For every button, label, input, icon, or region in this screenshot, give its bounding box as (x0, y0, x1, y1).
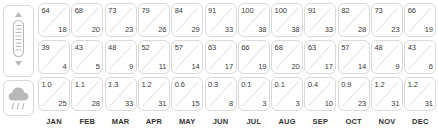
month-column-feb: 68204351.128 (71, 3, 103, 114)
high-temperature-cell[interactable]: 7323 (105, 3, 137, 37)
high-temperature-cell-primary-value: 73 (108, 6, 116, 15)
precipitation-cell-primary-value: 1.0 (42, 80, 52, 89)
high-temperature-cell-secondary-value: 29 (192, 25, 200, 34)
month-column-jun: 913363170.38 (205, 3, 237, 114)
rain-cloud-icon (7, 85, 31, 111)
high-temperature-cell-primary-value: 100 (275, 6, 287, 15)
precipitation-cell-secondary-value: 33 (125, 99, 133, 108)
precipitation-cell[interactable]: 1.231 (138, 77, 170, 111)
high-temperature-cell-primary-value: 91 (208, 6, 216, 15)
low-temperature-cell-primary-value: 39 (42, 43, 50, 52)
high-temperature-cell[interactable]: 9133 (304, 3, 336, 37)
month-label: JAN (38, 117, 70, 126)
high-temperature-cell-primary-value: 84 (175, 6, 183, 15)
low-temperature-cell-primary-value: 43 (408, 43, 416, 52)
month-label: AUG (271, 117, 303, 126)
month-column-may: 842957140.615 (171, 3, 203, 114)
low-temperature-cell[interactable]: 5714 (171, 40, 203, 74)
low-temperature-cell-secondary-value: 20 (291, 62, 299, 71)
high-temperature-cell-primary-value: 82 (341, 6, 349, 15)
low-temperature-cell-primary-value: 48 (375, 43, 383, 52)
month-label: NOV (371, 117, 403, 126)
low-temperature-cell-primary-value: 68 (275, 43, 283, 52)
low-temperature-cell[interactable]: 5211 (138, 40, 170, 74)
low-temperature-cell-primary-value: 57 (175, 43, 183, 52)
month-column-jan: 64183941.025 (38, 3, 70, 114)
high-temperature-cell-secondary-value: 20 (92, 25, 100, 34)
precipitation-cell-secondary-value: 8 (229, 99, 233, 108)
precipitation-cell-secondary-value: 25 (58, 99, 66, 108)
low-temperature-cell-secondary-value: 17 (225, 62, 233, 71)
high-temperature-cell-secondary-value: 38 (291, 25, 299, 34)
month-column-jul: 1003866190.13 (238, 3, 270, 114)
precipitation-cell-primary-value: 1.1 (75, 80, 85, 89)
precipitation-cell[interactable]: 0.410 (304, 77, 336, 111)
month-column-mar: 73234891.333 (105, 3, 137, 114)
low-temperature-cell[interactable]: 6317 (205, 40, 237, 74)
high-temperature-cell[interactable]: 6820 (71, 3, 103, 37)
precipitation-cell-primary-value: 1.2 (141, 80, 151, 89)
low-temperature-cell[interactable]: 6619 (238, 40, 270, 74)
low-temperature-cell[interactable]: 394 (38, 40, 70, 74)
precipitation-cell[interactable]: 0.923 (338, 77, 370, 111)
precipitation-cell[interactable]: 0.615 (171, 77, 203, 111)
precipitation-cell-secondary-value: 23 (358, 99, 366, 108)
low-temperature-cell-primary-value: 63 (208, 43, 216, 52)
precipitation-cell[interactable]: 1.231 (371, 77, 403, 111)
high-temperature-cell-primary-value: 100 (241, 6, 253, 15)
month-label: SEP (304, 117, 336, 126)
precipitation-cell-primary-value: 0.4 (308, 80, 318, 89)
high-temperature-cell-secondary-value: 18 (58, 25, 66, 34)
low-temperature-cell[interactable]: 489 (105, 40, 137, 74)
high-temperature-cell[interactable]: 7323 (371, 3, 403, 37)
precipitation-cell[interactable]: 1.128 (71, 77, 103, 111)
low-temperature-cell-secondary-value: 9 (129, 62, 133, 71)
precipitation-row-icon-cell (3, 80, 34, 116)
precipitation-cell[interactable]: 1.231 (404, 77, 436, 111)
low-temperature-cell[interactable]: 6820 (271, 40, 303, 74)
precipitation-cell-secondary-value: 15 (192, 99, 200, 108)
low-temperature-cell[interactable]: 5714 (338, 40, 370, 74)
low-temperature-cell-secondary-value: 11 (159, 62, 167, 71)
precipitation-cell[interactable]: 0.38 (205, 77, 237, 111)
climate-summary-widget: JAN64183941.025FEB68204351.128MAR7323489… (0, 0, 438, 131)
high-temperature-cell-primary-value: 68 (75, 6, 83, 15)
precipitation-cell[interactable]: 0.13 (271, 77, 303, 111)
low-temperature-cell[interactable]: 489 (371, 40, 403, 74)
low-temperature-cell-primary-value: 52 (141, 43, 149, 52)
high-temperature-cell[interactable]: 6619 (404, 3, 436, 37)
low-temperature-cell-primary-value: 66 (241, 43, 249, 52)
thermometer-icon (8, 10, 29, 72)
high-temperature-cell[interactable]: 8228 (338, 3, 370, 37)
precipitation-cell-secondary-value: 3 (262, 99, 266, 108)
low-temperature-cell-primary-value: 48 (108, 43, 116, 52)
month-column-sep: 913363170.410 (304, 3, 336, 114)
precipitation-cell[interactable]: 1.333 (105, 77, 137, 111)
low-temperature-cell[interactable]: 436 (404, 40, 436, 74)
high-temperature-cell[interactable]: 6418 (38, 3, 70, 37)
low-temperature-cell-secondary-value: 14 (358, 62, 366, 71)
month-column-apr: 792652111.231 (138, 3, 170, 114)
high-temperature-cell[interactable]: 7926 (138, 3, 170, 37)
precipitation-cell[interactable]: 1.025 (38, 77, 70, 111)
precipitation-cell[interactable]: 0.13 (238, 77, 270, 111)
high-temperature-cell[interactable]: 10038 (238, 3, 270, 37)
month-label: JUL (238, 117, 270, 126)
precipitation-cell-primary-value: 0.1 (275, 80, 285, 89)
high-temperature-cell[interactable]: 9133 (205, 3, 237, 37)
low-temperature-cell[interactable]: 435 (71, 40, 103, 74)
high-temperature-cell-primary-value: 66 (408, 6, 416, 15)
precipitation-cell-primary-value: 0.6 (175, 80, 185, 89)
month-column-dec: 66194361.231 (404, 3, 436, 114)
precipitation-cell-primary-value: 1.2 (375, 80, 385, 89)
low-temperature-cell[interactable]: 6317 (304, 40, 336, 74)
precipitation-cell-primary-value: 1.3 (108, 80, 118, 89)
high-temperature-cell[interactable]: 8429 (171, 3, 203, 37)
temperature-row-icon-cell (3, 5, 34, 77)
precipitation-cell-secondary-value: 28 (92, 99, 100, 108)
low-temperature-cell-secondary-value: 19 (258, 62, 266, 71)
high-temperature-cell-secondary-value: 38 (258, 25, 266, 34)
row-icon-column (3, 3, 36, 120)
high-temperature-cell[interactable]: 10038 (271, 3, 303, 37)
month-label: JUN (205, 117, 237, 126)
